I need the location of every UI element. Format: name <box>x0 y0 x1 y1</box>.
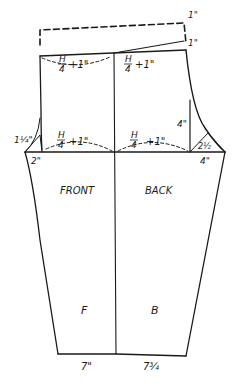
label-front-hem: 7" <box>81 361 92 372</box>
back-hip-plus: +1" <box>146 136 165 147</box>
hem-line <box>58 354 186 356</box>
label-front-crotch-extension: 2" <box>31 156 41 166</box>
back-waist-plus: +1" <box>135 59 154 70</box>
label-back: BACK <box>145 185 174 196</box>
front-hip-num: H <box>58 130 65 140</box>
label-back-crotch-extension: 4" <box>200 156 210 166</box>
front-waist-num: H <box>59 54 66 64</box>
back-waist-den: 4 <box>125 64 131 74</box>
label-front-crotch-diagonal: 1¼" <box>14 135 33 145</box>
front-leg-outseam <box>25 152 58 354</box>
label-b: B <box>151 304 159 317</box>
label-back-hem: 7¾ <box>143 361 159 372</box>
label-waist-rise: 1" <box>188 38 198 48</box>
waistband-extension-dashed <box>40 23 186 45</box>
back-hip-num: H <box>131 130 138 140</box>
front-waist-plus: +1" <box>69 59 88 70</box>
back-leg-outseam <box>186 152 225 356</box>
label-f: F <box>81 304 88 317</box>
label-front: FRONT <box>60 185 95 196</box>
label-back-vertical: 4" <box>177 119 187 129</box>
back-waist-num: H <box>125 54 132 64</box>
front-waist-den: 4 <box>59 64 65 74</box>
label-back-crotch-diagonal: 2½ <box>198 142 211 151</box>
front-hip-den: 4 <box>58 140 64 150</box>
back-crotch-curve <box>186 50 225 152</box>
pants-pattern-diagram: 1" 1" H 4 +1" H 4 +1" H 4 +1" H 4 +1" 1¼… <box>0 0 234 390</box>
label-waist-extension: 1" <box>188 10 198 20</box>
front-hip-plus: +1" <box>69 136 88 147</box>
center-line <box>114 53 116 354</box>
back-hip-den: 4 <box>131 140 137 150</box>
